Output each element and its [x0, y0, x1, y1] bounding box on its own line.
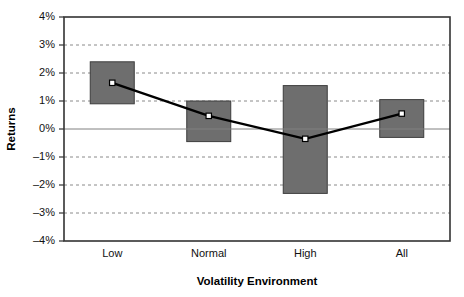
y-axis-tick-label: –1% — [33, 150, 55, 162]
x-axis-tick-label-low: Low — [102, 247, 122, 259]
y-axis-tick-label: –3% — [33, 206, 55, 218]
x-axis-title: Volatility Environment — [197, 275, 318, 287]
chart-container: 4%3%2%1%0%–1%–2%–3%–4% LowNormalHighAll … — [0, 0, 464, 297]
y-axis-tick-label: 2% — [39, 66, 55, 78]
x-axis-tick-label-all: All — [396, 247, 408, 259]
y-axis-tick-label: 1% — [39, 94, 55, 106]
y-axis-title: Returns — [5, 107, 17, 150]
y-axis-tick-label: –2% — [33, 178, 55, 190]
data-point-marker — [206, 113, 211, 118]
y-axis-tick-label: 4% — [39, 10, 55, 22]
y-axis-tick-label: –4% — [33, 234, 55, 246]
data-point-marker — [110, 80, 115, 85]
bar-normal — [187, 101, 231, 142]
data-point-marker — [303, 136, 308, 141]
x-axis-tick-label-high: High — [294, 247, 317, 259]
y-axis-tick-label: 0% — [39, 122, 55, 134]
returns-by-volatility-chart: 4%3%2%1%0%–1%–2%–3%–4% LowNormalHighAll … — [0, 0, 464, 297]
x-axis-tick-label-normal: Normal — [191, 247, 226, 259]
y-axis-tick-label: 3% — [39, 38, 55, 50]
data-point-marker — [399, 111, 404, 116]
